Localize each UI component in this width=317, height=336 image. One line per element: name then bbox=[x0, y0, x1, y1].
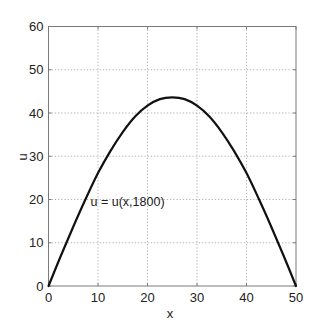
data-line-series bbox=[49, 97, 297, 286]
y-tick-label: 60 bbox=[29, 19, 43, 34]
chart: 01020304050 0102030405060 u = u(x,1800) … bbox=[0, 0, 317, 336]
x-tick-label: 50 bbox=[289, 290, 303, 305]
x-tick-labels: 01020304050 bbox=[45, 290, 303, 305]
y-tick-label: 20 bbox=[29, 192, 43, 207]
grid-lines bbox=[49, 27, 297, 287]
x-tick-label: 20 bbox=[140, 290, 154, 305]
curve-annotation: u = u(x,1800) bbox=[91, 195, 165, 209]
y-axis-label: u bbox=[15, 153, 30, 160]
x-tick-label: 0 bbox=[45, 290, 52, 305]
x-axis-label: x bbox=[167, 306, 174, 321]
y-tick-label: 30 bbox=[29, 149, 43, 164]
y-tick-label: 50 bbox=[29, 62, 43, 77]
y-tick-labels: 0102030405060 bbox=[29, 19, 43, 294]
y-tick-label: 0 bbox=[36, 279, 43, 294]
axis-ticks bbox=[49, 27, 297, 287]
y-tick-label: 10 bbox=[29, 235, 43, 250]
x-tick-label: 30 bbox=[190, 290, 204, 305]
x-tick-label: 40 bbox=[239, 290, 253, 305]
plot-area-frame bbox=[49, 27, 297, 287]
x-tick-label: 10 bbox=[91, 290, 105, 305]
y-tick-label: 40 bbox=[29, 106, 43, 121]
